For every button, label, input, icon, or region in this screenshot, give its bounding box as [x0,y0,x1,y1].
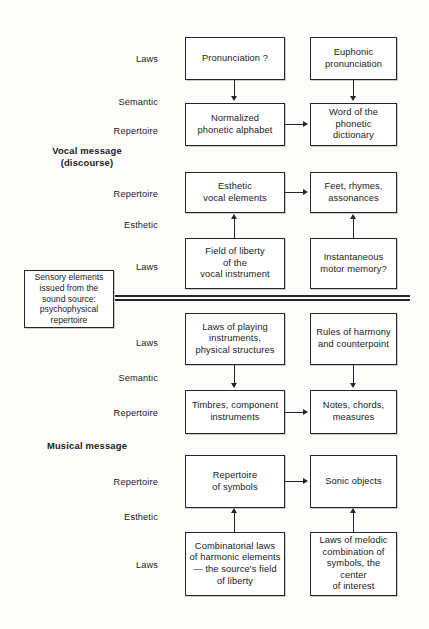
node-combinatorial-laws: Combinatorial laws of harmonic elements … [185,532,285,596]
arrow-up-icon-3 [231,508,237,513]
node-normalized-phonetic-alphabet: Normalized phonetic alphabet [185,103,285,146]
node-feet-rhymes-assonances: Feet, rhymes, assonances [310,172,397,213]
node-rules-of-harmony: Rules of harmony and counterpoint [310,313,397,365]
row-label-repertoire-2: Repertoire [88,189,158,199]
node-field-of-liberty-text: Field of liberty of the vocal instrument [200,246,269,281]
row-label-repertoire-1: Repertoire [88,126,158,136]
node-pronunciation: Pronunciation ? [185,37,285,80]
arrow-right-icon-1 [303,121,308,127]
node-repertoire-of-symbols: Repertoire of symbols [185,455,285,508]
node-timbres-component-instruments-text: Timbres, component instruments [192,400,278,423]
arrow-right-icon-3 [303,409,308,415]
connector-line-11 [234,513,235,532]
connector-line-5 [234,219,235,238]
node-field-of-liberty: Field of liberty of the vocal instrument [185,238,285,289]
row-label-repertoire-4: Repertoire [88,477,158,487]
node-sonic-objects-text: Sonic objects [325,476,382,488]
row-label-semantic-2: Semantic [88,373,158,383]
row-label-laws-2: Laws [88,262,158,272]
node-feet-rhymes-assonances-text: Feet, rhymes, assonances [324,181,382,204]
arrow-right-icon-2 [303,189,308,195]
row-label-esthetic-1: Esthetic [88,220,158,230]
node-instantaneous-motor-memory: Instantaneous motor memory? [310,238,397,289]
arrow-down-icon-2 [350,96,356,101]
node-euphonic-pronunciation: Euphonic pronunciation [310,37,397,80]
node-combinatorial-laws-text: Combinatorial laws of harmonic elements … [190,541,281,587]
sensory-elements-text: Sensory elements issued from the sound s… [35,272,104,326]
node-esthetic-vocal-elements-text: Esthetic vocal elements [203,181,266,204]
node-rules-of-harmony-text: Rules of harmony and counterpoint [316,327,390,350]
node-repertoire-of-symbols-text: Repertoire of symbols [212,470,257,493]
node-laws-of-playing-instruments-text: Laws of playing instruments, physical st… [196,322,275,357]
section-divider [115,295,410,301]
arrow-down-icon-3 [231,383,237,388]
connector-line-3 [285,124,304,125]
diagram-canvas: Vocal message (discourse) Musical messag… [0,0,429,629]
node-pronunciation-text: Pronunciation ? [202,53,268,65]
connector-line-8 [353,365,354,384]
connector-line-10 [285,481,304,482]
connector-line-9 [285,412,304,413]
node-notes-chords-measures-text: Notes, chords, measures [323,400,384,423]
arrow-up-icon-4 [350,508,356,513]
node-euphonic-pronunciation-text: Euphonic pronunciation [325,47,382,70]
connector-line-12 [353,513,354,532]
arrow-down-icon-4 [350,383,356,388]
node-word-of-phonetic-dictionary-text: Word of the phonetic dictionary [314,107,393,142]
connector-line-2 [353,80,354,97]
node-sonic-objects: Sonic objects [310,455,397,508]
node-laws-of-playing-instruments: Laws of playing instruments, physical st… [185,313,285,365]
node-normalized-phonetic-alphabet-text: Normalized phonetic alphabet [197,113,272,136]
arrow-right-icon-4 [303,478,308,484]
node-notes-chords-measures: Notes, chords, measures [310,390,397,434]
node-laws-of-melodic-combination-text: Laws of melodic combination of symbols, … [314,535,393,593]
connector-line-6 [353,219,354,238]
arrow-up-icon-1 [231,214,237,219]
node-timbres-component-instruments: Timbres, component instruments [185,390,285,434]
arrow-down-icon-1 [231,96,237,101]
row-label-semantic-1: Semantic [88,97,158,107]
node-laws-of-melodic-combination: Laws of melodic combination of symbols, … [310,532,397,596]
sensory-elements-box: Sensory elements issued from the sound s… [24,270,114,328]
connector-line-7 [234,365,235,384]
node-word-of-phonetic-dictionary: Word of the phonetic dictionary [310,103,397,146]
row-label-laws-1: Laws [88,54,158,64]
group-label-musical-message: Musical message [28,440,146,452]
group-label-vocal-message: Vocal message (discourse) [28,145,146,168]
connector-line-4 [285,192,304,193]
connector-line-1 [234,80,235,97]
row-label-esthetic-2: Esthetic [88,512,158,522]
node-instantaneous-motor-memory-text: Instantaneous motor memory? [320,252,386,275]
row-label-laws-3: Laws [88,338,158,348]
row-label-laws-4: Laws [88,560,158,570]
row-label-repertoire-3: Repertoire [88,408,158,418]
section-divider-line-top [115,295,410,297]
section-divider-line-bottom [115,299,410,301]
arrow-up-icon-2 [350,214,356,219]
node-esthetic-vocal-elements: Esthetic vocal elements [185,172,285,213]
